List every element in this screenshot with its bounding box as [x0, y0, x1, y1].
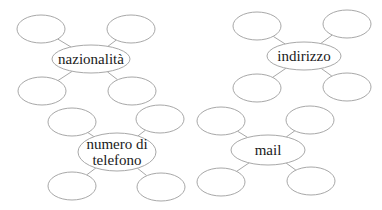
empty-answer-bubble[interactable] — [233, 74, 281, 102]
empty-answer-bubble[interactable] — [17, 15, 65, 43]
empty-answer-bubble[interactable] — [48, 172, 96, 200]
hub-label: indirizzo — [277, 48, 330, 64]
empty-answer-bubble[interactable] — [323, 10, 371, 38]
empty-answer-bubble[interactable] — [137, 173, 185, 201]
hub-label: nazionalità — [58, 51, 124, 67]
hub-label: numero di — [86, 136, 147, 152]
empty-answer-bubble[interactable] — [233, 12, 281, 40]
empty-answer-bubble[interactable] — [48, 108, 96, 136]
empty-answer-bubble[interactable] — [287, 167, 335, 195]
empty-answer-bubble[interactable] — [323, 73, 371, 101]
empty-answer-bubble[interactable] — [107, 15, 155, 43]
hub-label: telefono — [92, 152, 141, 168]
hub-label: mail — [255, 142, 282, 158]
empty-answer-bubble[interactable] — [197, 107, 245, 135]
empty-answer-bubble[interactable] — [18, 77, 66, 105]
spider-diagram: nazionalitàindirizzonumero ditelefonomai… — [0, 0, 382, 210]
empty-answer-bubble[interactable] — [286, 106, 334, 134]
empty-answer-bubble[interactable] — [108, 77, 156, 105]
empty-answer-bubble[interactable] — [136, 105, 184, 133]
empty-answer-bubble[interactable] — [197, 168, 245, 196]
